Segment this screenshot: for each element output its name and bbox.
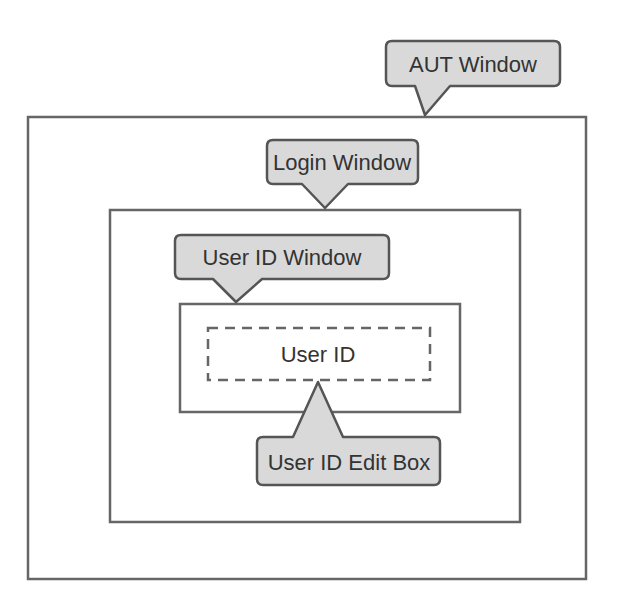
user-id-window-label: User ID Window [203, 245, 362, 270]
user-id-edit-box-label: User ID Edit Box [268, 450, 431, 475]
login-window-label: Login Window [273, 150, 411, 175]
aut-window-label: AUT Window [409, 52, 537, 77]
user-id-edit-box-text: User ID [281, 342, 356, 367]
window-hierarchy-diagram: AUT Window Login Window User ID Window U… [0, 0, 623, 607]
